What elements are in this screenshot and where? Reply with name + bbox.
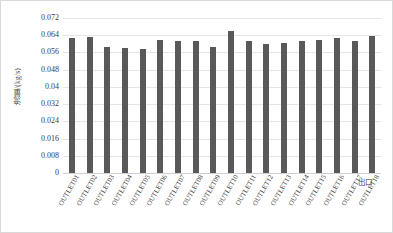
y-tick-label: 0 <box>7 169 59 177</box>
y-tick-label: 0.048 <box>7 66 59 74</box>
bar <box>228 31 234 173</box>
bar <box>334 38 340 173</box>
bar <box>281 43 287 173</box>
bar <box>122 48 128 173</box>
bar <box>69 38 75 173</box>
y-tick-label: 0.032 <box>7 100 59 108</box>
bar <box>210 47 216 173</box>
y-tick-label: 0.072 <box>7 14 59 22</box>
bar <box>246 41 252 173</box>
y-tick-label: 0.024 <box>7 117 59 125</box>
y-tick-label: 0.008 <box>7 152 59 160</box>
bar <box>316 40 322 173</box>
bar-chart-figure: 流量/(kg/s) 00.0080.0160.0240.0320.040.048… <box>0 0 393 233</box>
bar <box>104 47 110 173</box>
plot-area <box>63 18 381 173</box>
bar <box>263 44 269 173</box>
y-tick-label: 0.04 <box>7 83 59 91</box>
bar <box>352 41 358 173</box>
bar <box>299 41 305 173</box>
y-tick-label: 0.056 <box>7 48 59 56</box>
bar <box>369 36 375 173</box>
x-axis-title: 出口 <box>358 179 372 187</box>
y-tick-label: 0.064 <box>7 31 59 39</box>
x-axis-tick-labels: OUTLET01OUTLET02OUTLET03OUTLET04OUTLET05… <box>63 174 381 232</box>
bar-series <box>63 18 381 173</box>
bar <box>87 37 93 173</box>
bar <box>175 41 181 173</box>
bar <box>140 49 146 173</box>
y-tick-label: 0.016 <box>7 135 59 143</box>
bar <box>193 41 199 173</box>
y-axis-tick-labels: 00.0080.0160.0240.0320.040.0480.0560.064… <box>1 18 59 173</box>
bar <box>157 40 163 173</box>
